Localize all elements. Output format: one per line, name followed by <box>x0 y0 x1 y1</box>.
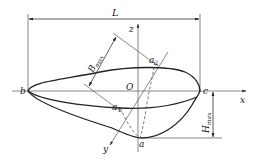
point-c-label: c <box>203 86 208 96</box>
point-a-label: a <box>139 139 144 149</box>
z-axis-label: z <box>128 24 134 34</box>
height-max-label: Hmax <box>201 112 212 134</box>
length-dimension: L <box>28 7 200 92</box>
lower-edge-curve <box>28 91 200 138</box>
origin-label: O <box>126 82 134 92</box>
width-max-dimension: Bmax <box>84 33 158 112</box>
point-b-label: b <box>20 86 26 96</box>
y-axis-label: y <box>102 144 109 154</box>
point-a1-label: a1 <box>112 102 121 113</box>
diagram: L x z y O Bmax <box>0 0 261 160</box>
height-max-dimension: Hmax <box>142 92 222 138</box>
length-label: L <box>111 7 119 18</box>
point-a2-label: a2 <box>149 55 158 66</box>
upper-edge-curve <box>28 68 200 92</box>
dashed-section-curve <box>140 62 155 138</box>
x-axis-label: x <box>240 95 245 105</box>
x-axis: x <box>12 91 246 105</box>
